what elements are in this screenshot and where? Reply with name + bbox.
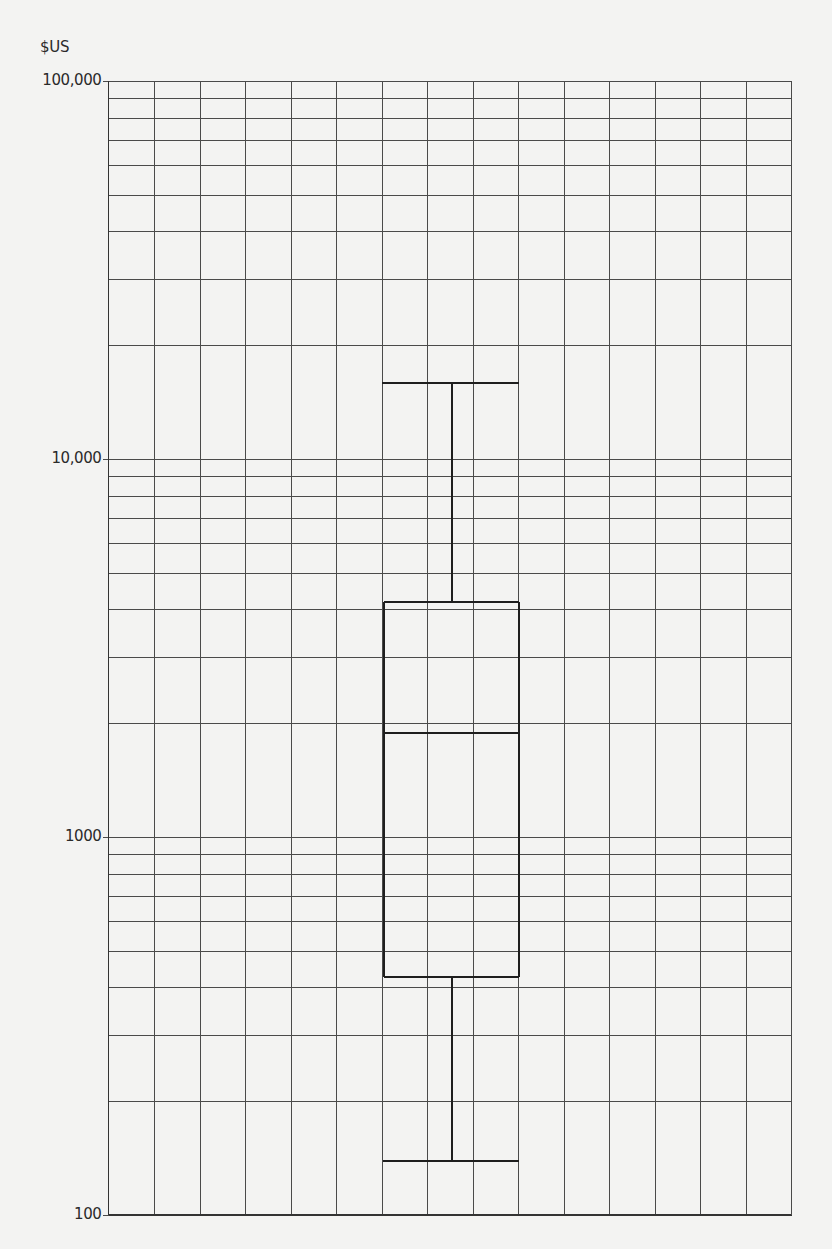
axis-frame	[103, 81, 792, 1216]
box-plot-series	[382, 383, 519, 1161]
plot-area	[0, 0, 832, 1249]
horizontal-gridlines	[109, 82, 792, 1216]
box-plot-chart: $US 100,000 10,000 1000 100	[0, 0, 832, 1249]
